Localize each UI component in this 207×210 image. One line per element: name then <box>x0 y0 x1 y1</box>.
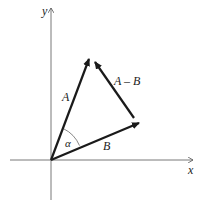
vector-a-minus-b-label: A – B <box>113 74 141 88</box>
vector-b-label: B <box>103 139 111 153</box>
vector-a-minus-b <box>95 62 134 118</box>
diagram-canvas: y x A B A – B α <box>0 0 207 210</box>
vector-a-label: A <box>61 90 70 104</box>
vector-diagram: y x A B A – B α <box>0 0 207 210</box>
angle-alpha-label: α <box>65 137 71 149</box>
y-axis-label: y <box>41 4 48 18</box>
x-axis-label: x <box>187 163 194 177</box>
